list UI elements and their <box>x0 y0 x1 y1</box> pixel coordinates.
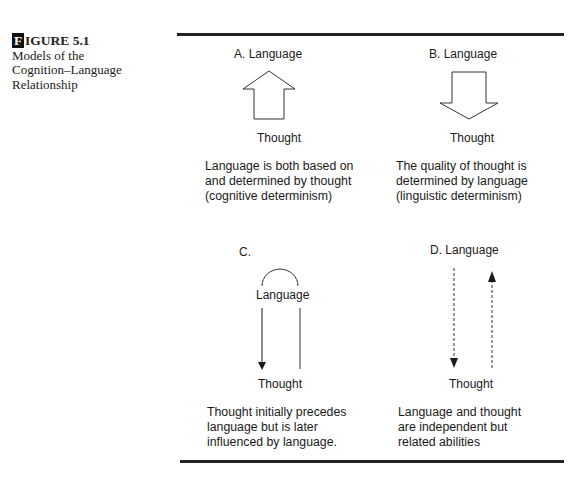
feedback-arc-arrow-icon <box>258 269 300 370</box>
diagram-arrows <box>0 0 585 493</box>
hollow-up-arrow-icon <box>243 71 295 119</box>
dashed-parallel-arrows-icon <box>450 268 496 369</box>
hollow-down-arrow-icon <box>440 72 498 119</box>
